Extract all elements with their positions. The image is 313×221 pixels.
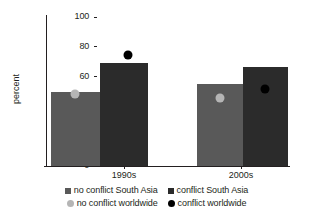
x-axis-tick-label: 1990s	[94, 170, 154, 181]
dot-2000s-no-conflict-worldwide	[216, 94, 225, 103]
x-axis-tick-mark	[124, 166, 125, 169]
legend-entry-no-conflict-worldwide: no conflict worldwide	[67, 198, 158, 209]
legend-entry-no-conflict-south-asia: no conflict South Asia	[65, 185, 158, 196]
legend-square-icon	[65, 188, 71, 194]
legend-entry-conflict-worldwide: conflict worldwide	[168, 198, 247, 209]
legend-square-icon	[168, 188, 174, 194]
bar-1990s-conflict-south-asia	[100, 63, 148, 166]
bar-chart-figure: percent 100 80 60 40 20 0	[0, 0, 313, 221]
x-axis-ticks: 1990s 2000s	[0, 166, 313, 182]
legend-label: conflict worldwide	[178, 198, 247, 209]
legend-circle-icon	[168, 200, 175, 207]
bar-2000s-conflict-south-asia	[243, 67, 288, 166]
chart-legend: no conflict South Asia conflict South As…	[0, 184, 313, 210]
legend-label: conflict South Asia	[177, 185, 249, 196]
y-axis-ticks: 100 80 60 40 20 0	[0, 17, 47, 166]
x-axis-tick-mark	[241, 166, 242, 169]
legend-label: no conflict South Asia	[74, 185, 158, 196]
x-axis-tick-label: 2000s	[211, 170, 271, 181]
legend-row: no conflict worldwide conflict worldwide	[0, 197, 313, 210]
dot-1990s-conflict-worldwide	[124, 51, 133, 60]
legend-entry-conflict-south-asia: conflict South Asia	[168, 185, 249, 196]
legend-circle-icon	[67, 200, 74, 207]
dot-2000s-conflict-worldwide	[261, 84, 270, 93]
dot-1990s-no-conflict-worldwide	[71, 90, 80, 99]
legend-label: no conflict worldwide	[77, 198, 158, 209]
bar-1990s-no-conflict-south-asia	[51, 92, 100, 167]
plot-area	[47, 17, 290, 166]
legend-row: no conflict South Asia conflict South As…	[0, 184, 313, 197]
